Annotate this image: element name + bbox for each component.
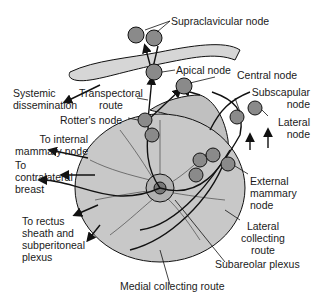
subscapular-node	[230, 110, 244, 124]
breast-lymphatic-diagram: Supraclavicular node Apical node Central…	[0, 0, 315, 297]
label-rectus-sheath: To rectus sheath and subperitoneal plexu…	[22, 215, 85, 263]
label-lateral-node: Lateral node	[262, 116, 310, 140]
label-central-node: Central node	[237, 69, 297, 81]
label-external-mammary-node: External mammary node	[250, 175, 297, 211]
external-mammary-node-4	[189, 168, 203, 182]
apical-node	[146, 64, 162, 80]
supraclavicular-node-2	[146, 30, 162, 46]
rotters-node-1	[138, 113, 152, 127]
label-subareolar-plexus: Subareolar plexus	[215, 258, 300, 270]
label-rotters-node: Rotter's node	[60, 114, 122, 126]
central-node	[176, 78, 192, 94]
label-systemic-dissemination: Systemic dissemination	[13, 87, 77, 111]
external-mammary-node-1	[193, 153, 207, 167]
label-transpectoral-route: Transpectoral route	[76, 87, 146, 111]
rotters-node-2	[145, 128, 159, 142]
label-apical-node: Apical node	[176, 64, 231, 76]
label-lateral-collecting-route: Lateral collecting route	[232, 220, 294, 256]
label-internal-mammary: To internal mammary node	[8, 133, 88, 157]
label-medial-collecting-route: Medial collecting route	[120, 280, 224, 292]
label-supraclavicular-node: Supraclavicular node	[171, 15, 269, 27]
label-contralateral-breast: To contralateral breast	[15, 159, 73, 195]
label-subscapular-node: Subscapular node	[248, 86, 310, 110]
external-mammary-node-2	[206, 148, 220, 162]
supraclavicular-node-1	[128, 27, 144, 43]
external-mammary-node-3	[221, 157, 235, 171]
